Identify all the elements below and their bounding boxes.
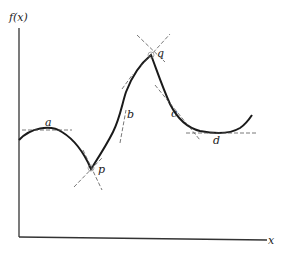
graph-canvas [0,0,281,253]
point-label-a: a [45,117,52,128]
tangent-b [120,110,126,143]
function-curve [19,55,252,169]
y-axis-label: f(x) [9,12,28,23]
tangent-q-right [141,34,170,66]
point-label-q: q [157,48,164,59]
point-label-c: c [171,108,177,119]
x-axis-label: x [268,235,274,246]
function-graph-figure: f(x) x a p b q c d [0,0,281,253]
point-label-b: b [127,109,134,120]
tangent-c [155,85,200,140]
x-axis [19,237,267,240]
point-label-p: p [98,164,105,175]
point-label-d: d [213,135,220,146]
